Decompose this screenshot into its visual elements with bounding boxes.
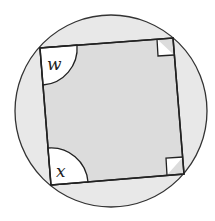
angle-w-label: w bbox=[47, 54, 62, 74]
angle-x-label: x bbox=[56, 161, 66, 181]
cyclic-quadrilateral-diagram: w x bbox=[0, 0, 215, 221]
